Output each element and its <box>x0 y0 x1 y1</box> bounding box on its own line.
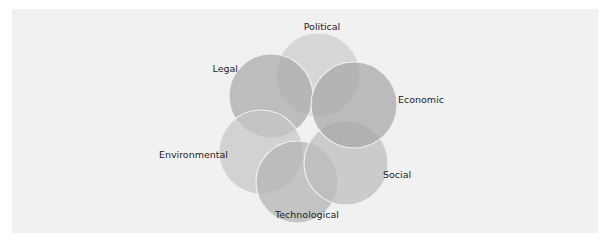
label-economic: Economic <box>398 94 444 105</box>
pestel-diagram: Political Economic Social Technological … <box>0 0 612 245</box>
label-legal: Legal <box>213 63 238 74</box>
circle-economic <box>311 62 397 148</box>
label-social: Social <box>383 169 411 180</box>
label-political: Political <box>304 21 341 32</box>
label-technological: Technological <box>274 209 339 220</box>
label-environmental: Environmental <box>159 149 228 160</box>
